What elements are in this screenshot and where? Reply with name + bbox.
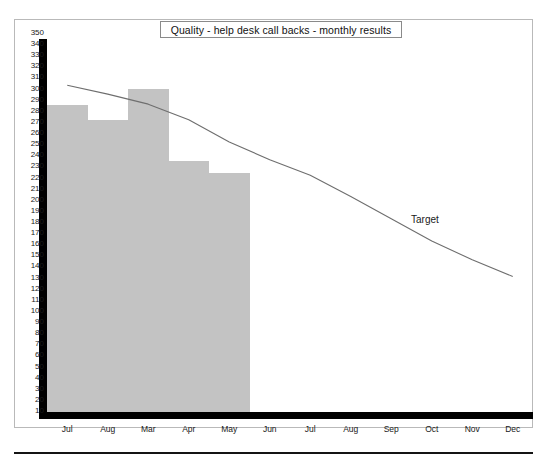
- target-annotation-label: Target: [411, 214, 439, 225]
- footer-divider: [14, 452, 533, 454]
- y-tick-label: 290: [14, 96, 47, 104]
- figure-page: Quality - help desk call backs - monthly…: [0, 0, 547, 466]
- chart-title-box: Quality - help desk call backs - monthly…: [160, 21, 402, 38]
- x-tick-label: Aug: [331, 424, 372, 438]
- y-tick-label: 120: [14, 285, 47, 293]
- y-tick-label: 250: [14, 140, 47, 148]
- x-tick-label: Sep: [371, 424, 412, 438]
- y-tick-label: 280: [14, 107, 47, 115]
- y-tick-label: 100: [14, 307, 47, 315]
- y-tick-label: 150: [14, 251, 47, 259]
- x-tick-label: Jun: [250, 424, 291, 438]
- x-tick-label: Jul: [47, 424, 88, 438]
- bar: [88, 120, 129, 412]
- y-tick-label: 180: [14, 218, 47, 226]
- y-tick-label: 30: [14, 385, 47, 393]
- y-tick-label: 40: [14, 374, 47, 382]
- y-tick-label: 160: [14, 240, 47, 248]
- y-tick-label: 130: [14, 274, 47, 282]
- y-tick-label: 260: [14, 129, 47, 137]
- y-tick-label: 20: [14, 396, 47, 404]
- y-tick-label: 230: [14, 162, 47, 170]
- y-tick-label: 10: [14, 407, 47, 415]
- x-tick-label: Aug: [88, 424, 129, 438]
- y-tick-label: 190: [14, 207, 47, 215]
- y-tick-label: 340: [14, 40, 47, 48]
- x-tick-label: Apr: [169, 424, 210, 438]
- y-tick-label: 60: [14, 351, 47, 359]
- y-tick-label: 300: [14, 85, 47, 93]
- y-tick-label: 320: [14, 62, 47, 70]
- page-title: Quality - help desk call backs - monthly…: [171, 24, 392, 36]
- y-axis-tick-labels: 3503403303203103002902802702602502402302…: [14, 0, 47, 466]
- y-tick-label: 310: [14, 73, 47, 81]
- y-tick-label: 80: [14, 329, 47, 337]
- y-tick-label: 50: [14, 363, 47, 371]
- y-tick-label: 210: [14, 185, 47, 193]
- y-tick-label: 270: [14, 118, 47, 126]
- x-tick-label: Oct: [412, 424, 453, 438]
- y-tick-label: 170: [14, 229, 47, 237]
- bar: [128, 89, 169, 412]
- y-tick-label: 70: [14, 340, 47, 348]
- x-tick-label: Nov: [452, 424, 493, 438]
- y-tick-label: 110: [14, 296, 47, 304]
- x-tick-label: May: [209, 424, 250, 438]
- bar-series: [47, 30, 533, 412]
- y-tick-label: 200: [14, 196, 47, 204]
- x-tick-label: Mar: [128, 424, 169, 438]
- y-tick-label: 330: [14, 51, 47, 59]
- x-tick-label: Dec: [493, 424, 534, 438]
- y-tick-label: 240: [14, 151, 47, 159]
- bar: [169, 161, 210, 412]
- x-axis-line: [39, 412, 533, 419]
- y-tick-label: 220: [14, 174, 47, 182]
- y-tick-label: 90: [14, 318, 47, 326]
- y-tick-label: 140: [14, 262, 47, 270]
- x-axis-tick-labels: JulAugMarAprMayJunJulAugSepOctNovDec: [47, 424, 533, 438]
- bar: [47, 105, 88, 412]
- x-tick-label: Jul: [290, 424, 331, 438]
- bar: [209, 173, 250, 412]
- y-tick-label: 350: [14, 29, 47, 37]
